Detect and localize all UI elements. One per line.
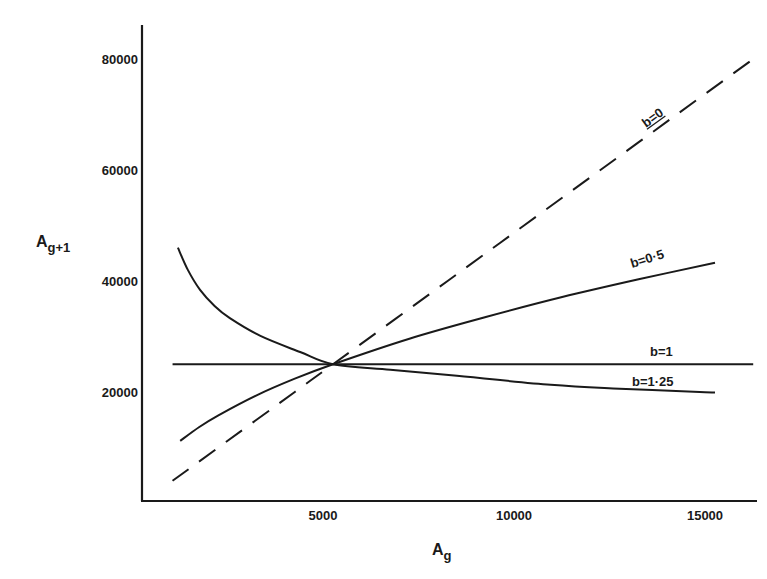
y-axis-label-main: A [36,233,48,250]
chart: 20000400006000080000 50001000015000 b=0b… [0,0,767,579]
y-tick-label: 80000 [102,52,138,67]
y-axis-label: Ag+1 [36,233,70,255]
curve-label-b-0-5: b=0·5 [628,246,665,270]
curve-label-b-1-25: b=1·25 [632,374,674,389]
x-tick-label: 10000 [496,508,532,523]
x-axis-label: Ag [432,541,452,563]
series-line-b-0 [173,59,754,481]
series-line-b-0-5 [180,263,715,441]
y-tick-label: 20000 [102,385,138,400]
y-tick-label: 40000 [102,274,138,289]
axes [141,25,757,501]
x-tick-label: 15000 [687,508,723,523]
x-axis-label-main: A [432,541,444,558]
x-tick-labels: 50001000015000 [309,508,724,523]
curve-label-b-1: b=1 [650,344,673,359]
curve-label-b-0: b=0 [639,105,666,131]
curve-labels: b=0b=0·5b=1b=1·25 [628,105,673,389]
y-tick-label: 60000 [102,163,138,178]
x-tick-label: 5000 [309,508,338,523]
y-tick-labels: 20000400006000080000 [102,52,138,400]
series-lines [173,59,754,481]
y-axis-label-subscript: g+1 [48,240,71,255]
x-axis-label-subscript: g [444,548,452,563]
